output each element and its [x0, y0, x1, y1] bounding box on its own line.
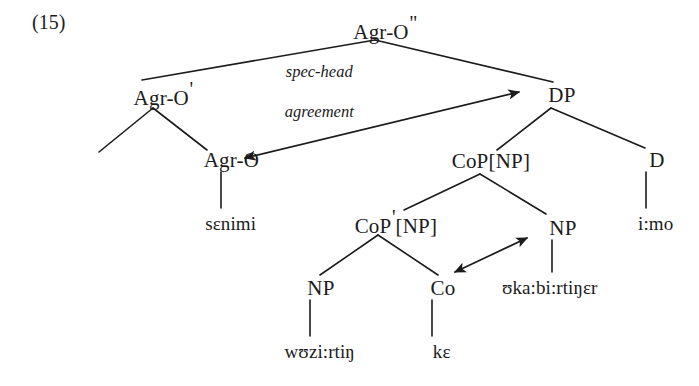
node-agr-o-bar-text: Agr-O	[134, 85, 189, 109]
node-agr-o-double-prime-text: Agr-O	[353, 19, 408, 43]
node-cop-np-text: CoP[NP]	[452, 149, 530, 173]
node-cop-bar-np-bracket: [NP]	[396, 213, 438, 237]
node-np-left: NP	[285, 254, 334, 322]
syntax-tree-figure: (15) spec-head agreement Agr-O" Agr-O' A…	[0, 0, 699, 386]
node-agr-o-double-prime: Agr-O"	[333, 0, 418, 66]
node-cop-np: CoP[NP]	[430, 127, 530, 195]
node-np-left-text: NP	[307, 276, 334, 300]
node-agr-o-bar: Agr-O'	[113, 56, 193, 131]
terminal-imo-text: i:mo	[638, 213, 673, 234]
terminal-wazirtin: wʊzi:rtiŋ	[265, 321, 355, 383]
terminal-ke-text: kɛ	[433, 341, 451, 362]
node-cop-bar-np: CoP'[NP]	[333, 184, 437, 259]
node-np-right-text: NP	[549, 216, 576, 240]
example-number: (15)	[32, 12, 65, 34]
node-agr-o-double-prime-mark: "	[409, 12, 418, 34]
node-cop-bar-np-text: CoP	[355, 213, 392, 237]
node-agr-o-head: Agr-O	[183, 126, 259, 194]
node-np-right: NP	[527, 194, 576, 262]
terminal-senimi-text: sɛnimi	[205, 213, 256, 234]
terminal-akabirtiner-text: ʊka:bi:rtiŋɛr	[502, 277, 598, 298]
node-co: Co	[409, 254, 456, 322]
terminal-ke: kɛ	[413, 321, 450, 383]
node-co-text: Co	[430, 276, 455, 300]
terminal-akabirtiner: ʊka:bi:rtiŋɛr	[483, 257, 598, 319]
node-d-text: D	[649, 148, 664, 172]
node-agr-o-bar-mark: '	[189, 78, 193, 100]
terminal-imo: i:mo	[619, 193, 674, 255]
annotation-line-2: agreement	[285, 102, 354, 121]
node-dp: DP	[526, 61, 575, 129]
node-d: D	[627, 126, 664, 194]
node-agr-o-head-text: Agr-O	[204, 148, 259, 172]
terminal-wazirtin-text: wʊzi:rtiŋ	[285, 341, 355, 362]
node-dp-text: DP	[548, 83, 575, 107]
terminal-senimi: sɛnimi	[186, 193, 256, 255]
